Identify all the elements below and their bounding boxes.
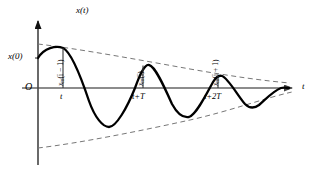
x-tick-label-t: t [60,92,62,101]
damped-oscillation-curve [38,47,289,127]
amplitude-subscript-1: m [59,78,65,82]
amplitude-label-i: xm(i) [137,71,145,86]
x-tick-label-t-plus-T: t+T [132,92,145,101]
lower-envelope-curve [38,92,292,148]
damped-oscillation-figure: x(t) x(0) O t t t+T t+2T xm(i − 1) xm(i)… [0,0,323,178]
y-axis-label: x(t) [76,6,89,15]
plot-svg [0,0,323,178]
amplitude-arg-1: (i − 1) [56,60,65,79]
initial-value-label: x(0) [8,52,23,61]
amplitude-arg-2: (i) [136,71,145,78]
x-tick-label-t-plus-2T: t+2T [204,92,221,101]
amplitude-subscript-2: m [139,78,145,82]
amplitude-arg-3: (i + 1) [211,60,220,79]
origin-label: O [25,82,32,92]
upper-envelope-curve [38,44,290,83]
amplitude-label-i-plus-1: xm(i + 1) [212,60,220,86]
amplitude-subscript-3: m [214,78,220,82]
amplitude-label-i-minus-1: xm(i − 1) [57,60,65,86]
x-axis-label: t [302,82,305,91]
